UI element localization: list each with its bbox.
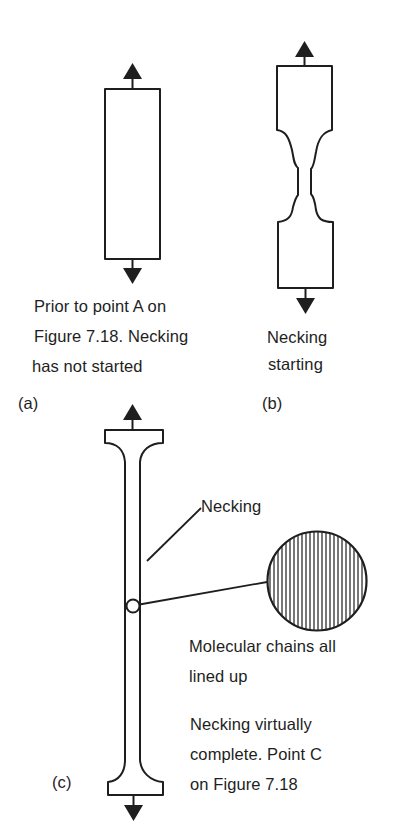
caption-a-line-1: Prior to point A on <box>34 292 166 320</box>
specimen-a-body <box>105 89 160 259</box>
caption-a-line-2: Figure 7.18. Necking <box>34 322 188 350</box>
tension-arrow-up-icon <box>295 41 314 57</box>
magnify-point-marker <box>127 600 140 613</box>
tension-arrow-up-icon <box>123 63 142 79</box>
chains-label-line-1: Molecular chains all <box>189 632 336 660</box>
panel-tag-b: (b) <box>262 389 282 417</box>
specimen-a <box>105 78 160 268</box>
caption-c-line-2: complete. Point C <box>190 740 322 768</box>
magnify-leader-line <box>140 582 268 605</box>
tension-arrow-down-icon <box>296 298 315 314</box>
tension-arrow-down-icon <box>124 805 143 821</box>
aligned-chains-hatching <box>270 520 362 640</box>
chains-label-line-2: lined up <box>189 662 248 690</box>
necking-label: Necking <box>201 492 261 520</box>
tension-arrow-down-icon <box>123 268 142 284</box>
caption-b-line-1: Necking <box>267 323 327 351</box>
tension-arrow-up-icon <box>123 404 142 420</box>
caption-c-line-3: on Figure 7.18 <box>190 770 298 798</box>
caption-a-line-3: has not started <box>32 352 143 380</box>
specimen-b <box>277 56 333 298</box>
necking-diagram: Prior to point A on Figure 7.18. Necking… <box>0 0 416 839</box>
specimen-b-body <box>277 66 333 288</box>
necking-leader-line <box>147 508 201 561</box>
caption-b-line-2: starting <box>268 350 323 378</box>
panel-tag-a: (a) <box>18 389 38 417</box>
caption-c-line-1: Necking virtually <box>190 710 312 738</box>
panel-tag-c: (c) <box>52 768 72 796</box>
